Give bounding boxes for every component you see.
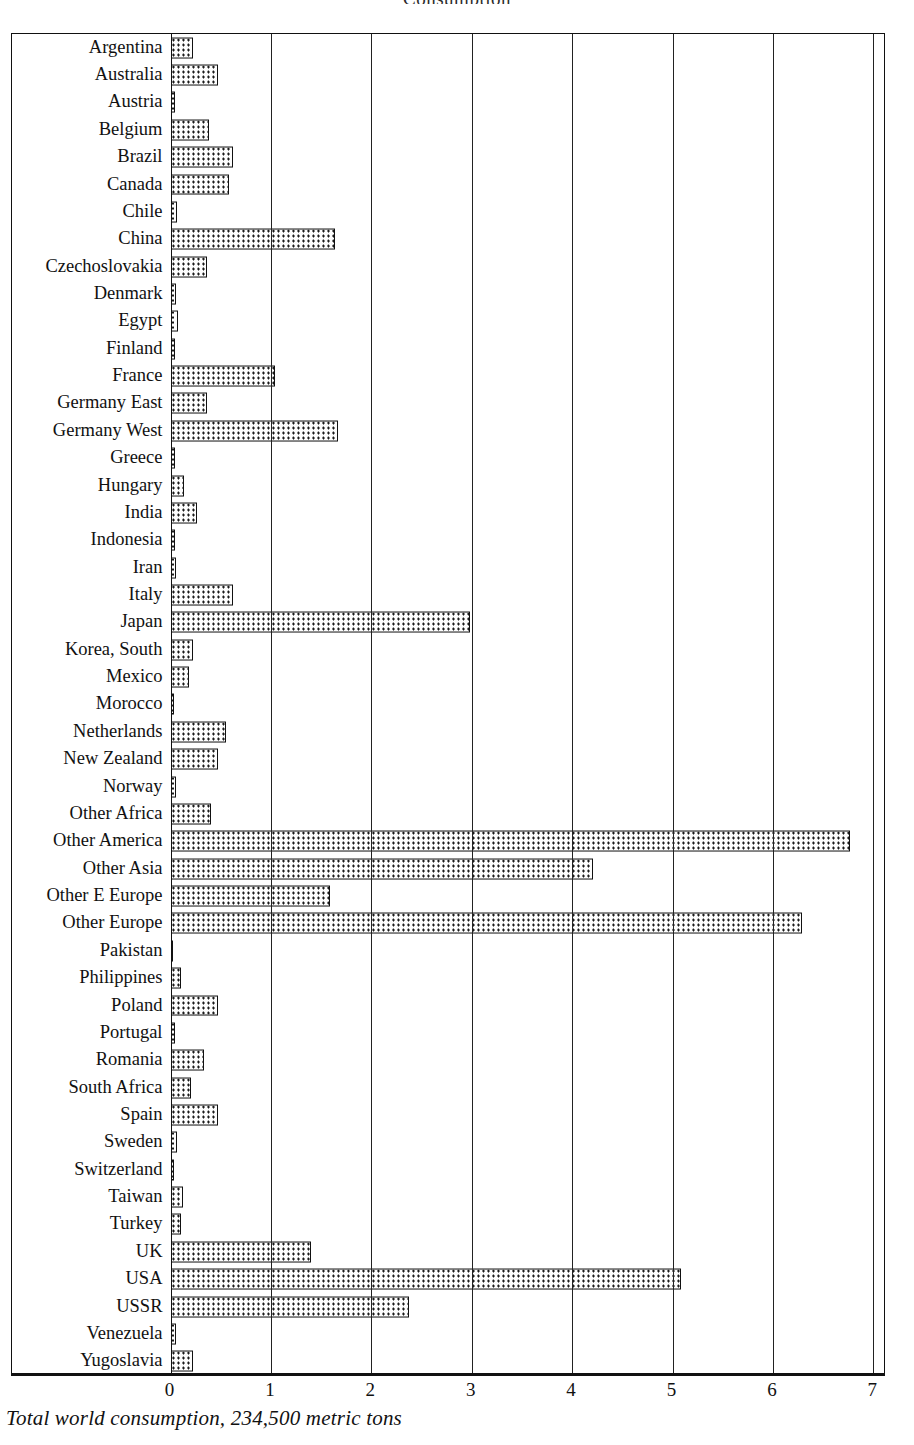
bar-label: Greece	[110, 449, 168, 468]
bar-label: Denmark	[94, 284, 169, 303]
bar-label: Germany East	[57, 394, 168, 413]
bar-row: Other E Europe	[12, 882, 884, 909]
bar-label: Other America	[53, 832, 168, 851]
bar-label: Austria	[108, 93, 168, 112]
bar-label: Argentina	[89, 38, 169, 57]
bar	[171, 37, 193, 58]
bar-row: Germany East	[12, 390, 884, 417]
bar-label: Venezuela	[86, 1324, 168, 1343]
bar-row: Canada	[12, 171, 884, 198]
bar	[171, 612, 470, 633]
gridline-3	[472, 34, 473, 1373]
bar-row: Switzerland	[12, 1156, 884, 1183]
x-tick-0: 0	[165, 1380, 175, 1399]
bar-label: Yugoslavia	[80, 1352, 168, 1371]
bar-row: Other Europe	[12, 910, 884, 937]
bar-row: South Africa	[12, 1074, 884, 1101]
bar-label: Germany West	[53, 421, 169, 440]
bar-row: Germany West	[12, 417, 884, 444]
bar-label: Other Asia	[83, 859, 169, 878]
bar-label: Switzerland	[74, 1160, 168, 1179]
x-tick-5: 5	[667, 1380, 677, 1399]
bar-label: Korea, South	[65, 640, 169, 659]
bar-row: Yugoslavia	[12, 1348, 884, 1375]
bar-label: Japan	[120, 613, 168, 632]
bar-row: Chile	[12, 198, 884, 225]
bar-label: Romania	[96, 1051, 169, 1070]
bar-label: Other E Europe	[46, 886, 168, 905]
bar	[171, 1214, 181, 1235]
bar-row: India	[12, 499, 884, 526]
bar-label: France	[112, 366, 168, 385]
bar-label: New Zealand	[63, 750, 168, 769]
bar-row: Other Africa	[12, 800, 884, 827]
bar	[171, 585, 233, 606]
bar-row: Morocco	[12, 691, 884, 718]
gridline-2	[371, 34, 372, 1373]
bar-label: Australia	[95, 65, 169, 84]
bar-label: USA	[125, 1270, 168, 1289]
bar-row: Romania	[12, 1047, 884, 1074]
bar-row: Japan	[12, 609, 884, 636]
bar-label: Indonesia	[91, 531, 169, 550]
bar-row: Taiwan	[12, 1183, 884, 1210]
bar-row: Mexico	[12, 663, 884, 690]
bar	[171, 119, 209, 140]
bar-label: Hungary	[98, 476, 169, 495]
bar	[171, 366, 275, 387]
bar-row: Korea, South	[12, 636, 884, 663]
bar	[171, 639, 193, 660]
bar-label: Philippines	[79, 969, 168, 988]
bar-label: Finland	[106, 339, 169, 358]
bar	[171, 393, 207, 414]
bar-row: Brazil	[12, 143, 884, 170]
bar-label: Portugal	[100, 1023, 169, 1042]
gridline-1	[271, 34, 272, 1373]
bar-row: Indonesia	[12, 527, 884, 554]
plot-area: ArgentinaAustraliaAustriaBelgiumBrazilCa…	[11, 33, 885, 1374]
bar-row: China	[12, 226, 884, 253]
bar-label: Other Europe	[62, 914, 168, 933]
bar	[171, 502, 197, 523]
bar-row: Netherlands	[12, 718, 884, 745]
bar-label: South Africa	[68, 1078, 168, 1097]
gridline-0	[171, 34, 172, 1373]
bar-row: Belgium	[12, 116, 884, 143]
bar-label: Other Africa	[70, 804, 169, 823]
bar-row: Venezuela	[12, 1320, 884, 1347]
bar-row: Iran	[12, 554, 884, 581]
bar-row: Sweden	[12, 1129, 884, 1156]
bar	[171, 831, 851, 852]
bar-row: France	[12, 362, 884, 389]
bar-row: Austria	[12, 89, 884, 116]
bar	[171, 1296, 410, 1317]
bar	[171, 886, 331, 907]
bar	[171, 256, 207, 277]
bar-label: Italy	[129, 585, 169, 604]
bar-label: Turkey	[110, 1215, 169, 1234]
bar	[171, 968, 181, 989]
bar-label: Pakistan	[100, 941, 169, 960]
bar-label: Iran	[133, 558, 169, 577]
bar	[171, 1351, 193, 1372]
x-tick-6: 6	[767, 1380, 777, 1399]
bar-label: Chile	[122, 202, 168, 221]
bar-row: UK	[12, 1238, 884, 1265]
bar-label: Egypt	[118, 312, 168, 331]
bar	[171, 1269, 681, 1290]
bar	[171, 721, 226, 742]
bar-label: Canada	[107, 175, 168, 194]
bar-rows: ArgentinaAustraliaAustriaBelgiumBrazilCa…	[12, 34, 884, 1373]
bar	[171, 667, 189, 688]
bar-label: Spain	[120, 1105, 168, 1124]
bar-row: Finland	[12, 335, 884, 362]
bar-row: New Zealand	[12, 746, 884, 773]
bar-row: Czechoslovakia	[12, 253, 884, 280]
x-tick-7: 7	[868, 1380, 878, 1399]
bar	[171, 749, 218, 770]
bar-label: USSR	[116, 1297, 168, 1316]
bar-label: Norway	[103, 777, 169, 796]
x-tick-2: 2	[366, 1380, 376, 1399]
bar-label: Morocco	[96, 695, 169, 714]
bar	[171, 420, 339, 441]
